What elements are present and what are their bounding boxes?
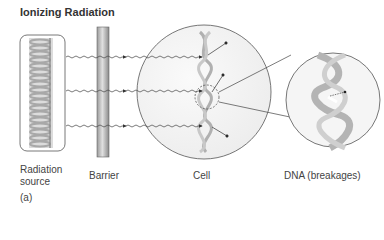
- label-source-line1: Radiation: [20, 164, 62, 176]
- radiation-source: [20, 35, 65, 151]
- label-barrier: Barrier: [89, 170, 119, 182]
- panel-label: (a): [20, 192, 32, 204]
- label-dna: DNA (breakages): [284, 170, 361, 182]
- label-source-line2: source: [20, 176, 62, 188]
- label-cell: Cell: [193, 170, 210, 182]
- label-radiation-source: Radiation source: [20, 164, 62, 188]
